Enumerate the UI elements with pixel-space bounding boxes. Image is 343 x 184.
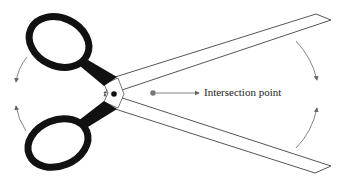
pivot-dot [111,91,117,97]
intersection-dot [150,90,156,96]
bottom-blade-rotation-arrow [296,108,317,148]
top-handle-rotation-arrow [16,57,27,82]
intersection-point-label: Intersection point [204,86,281,98]
bottom-handle [21,101,117,176]
scissors-diagram [0,0,343,184]
top-handle [21,7,117,86]
top-blade [104,14,331,96]
bottom-blade [104,92,331,173]
top-blade-rotation-arrow [296,41,317,80]
bottom-handle-rotation-arrow [16,106,26,131]
